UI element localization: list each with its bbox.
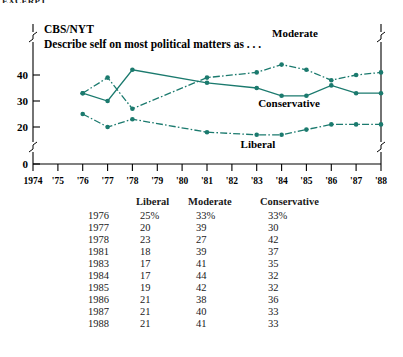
cell-moderate: 42 xyxy=(184,281,254,293)
cell-conservative: 37 xyxy=(254,245,348,257)
cell-moderate: 44 xyxy=(184,269,254,281)
cell-liberal: 20 xyxy=(130,221,184,233)
y-tick-labels: 0 20 30 40 xyxy=(17,69,29,170)
x-tick-label-85: '85 xyxy=(300,176,312,186)
cell-moderate: 40 xyxy=(184,305,254,317)
y-tick-label-20: 20 xyxy=(17,121,29,133)
table-row: 1985194232 xyxy=(88,281,348,293)
cell-year: 1983 xyxy=(88,257,130,269)
table-row: 1986213836 xyxy=(88,293,348,305)
x-tick-label-1974: 1974 xyxy=(24,176,43,186)
cell-liberal: 21 xyxy=(130,293,184,305)
series-layer xyxy=(80,62,383,137)
data-point-liberal-1978 xyxy=(130,117,135,122)
data-point-moderate-1978 xyxy=(130,107,135,112)
table-row: 1983174135 xyxy=(88,257,348,269)
cell-year: 1988 xyxy=(88,317,130,329)
data-point-moderate-1987 xyxy=(354,73,359,78)
data-point-conservative-1986 xyxy=(329,83,334,88)
cell-year: 1987 xyxy=(88,305,130,317)
cell-liberal: 21 xyxy=(130,305,184,317)
data-point-conservative-1983 xyxy=(254,86,259,91)
x-tick-label-86: '86 xyxy=(325,176,337,186)
table-header-moderate: Moderate xyxy=(184,196,254,209)
table-body: 197625%33%33%197720393019782327421981183… xyxy=(88,209,348,329)
cell-year: 1985 xyxy=(88,281,130,293)
x-tick-labels: 1974 '75 '76 '77 '78 '79 '80 '81 '82 '83… xyxy=(24,176,388,186)
data-point-conservative-1987 xyxy=(354,91,359,96)
right-axis-break-lower xyxy=(377,142,385,152)
cell-conservative: 36 xyxy=(254,293,348,305)
cell-moderate: 41 xyxy=(184,317,254,329)
cell-year: 1986 xyxy=(88,293,130,305)
x-tick-label-77: '77 xyxy=(102,176,114,186)
x-tick-label-88: '88 xyxy=(375,176,387,186)
table-row: 1987214033 xyxy=(88,305,348,317)
data-point-liberal-1984 xyxy=(279,133,284,138)
x-ticks xyxy=(33,164,381,171)
cell-liberal: 17 xyxy=(130,257,184,269)
cell-moderate: 39 xyxy=(184,221,254,233)
clipped-caption: EXCERPT xyxy=(2,0,46,3)
cell-year: 1984 xyxy=(88,269,130,281)
series-label-moderate: Moderate xyxy=(272,27,318,39)
data-table-wrap: Liberal Moderate Conservative 197625%33%… xyxy=(0,196,403,329)
table-header-row: Liberal Moderate Conservative xyxy=(88,196,348,209)
data-point-moderate-1981 xyxy=(205,75,210,80)
table-row: 1978232742 xyxy=(88,233,348,245)
data-point-moderate-1985 xyxy=(304,68,309,73)
data-point-conservative-1976 xyxy=(80,91,85,96)
cell-conservative: 33 xyxy=(254,305,348,317)
x-tick-label-75: '75 xyxy=(52,176,64,186)
y-axis-break-lower xyxy=(29,142,37,152)
table-header-year xyxy=(88,196,130,209)
y-tick-label-0: 0 xyxy=(23,158,29,170)
x-tick-label-76: '76 xyxy=(77,176,89,186)
x-tick-label-78: '78 xyxy=(126,176,138,186)
data-point-liberal-1986 xyxy=(329,122,334,127)
series-label-conservative: Conservative xyxy=(258,97,320,109)
data-point-moderate-1984 xyxy=(279,62,284,67)
cell-conservative: 33% xyxy=(254,209,348,221)
cell-liberal: 23 xyxy=(130,233,184,245)
cell-moderate: 38 xyxy=(184,293,254,305)
cell-conservative: 32 xyxy=(254,269,348,281)
chart-subtitle: Describe self on most political matters … xyxy=(44,38,261,51)
cell-year: 1976 xyxy=(88,209,130,221)
series-line-liberal xyxy=(83,114,381,135)
x-tick-label-84: '84 xyxy=(276,176,288,186)
x-tick-label-81: '81 xyxy=(201,176,213,186)
data-point-liberal-1981 xyxy=(205,130,210,135)
cell-conservative: 33 xyxy=(254,317,348,329)
cell-moderate: 33% xyxy=(184,209,254,221)
figure-root: EXCERPT xyxy=(0,0,403,357)
x-tick-label-80: '80 xyxy=(176,176,188,186)
x-tick-label-79: '79 xyxy=(151,176,163,186)
table-row: 1981183937 xyxy=(88,245,348,257)
cell-moderate: 27 xyxy=(184,233,254,245)
data-point-liberal-1988 xyxy=(379,122,384,127)
table-row: 1988214133 xyxy=(88,317,348,329)
x-tick-label-87: '87 xyxy=(350,176,362,186)
table-row: 1984174432 xyxy=(88,269,348,281)
cell-year: 1977 xyxy=(88,221,130,233)
cell-liberal: 19 xyxy=(130,281,184,293)
data-point-conservative-1988 xyxy=(379,91,384,96)
cell-year: 1978 xyxy=(88,233,130,245)
y-ticks xyxy=(33,75,40,164)
x-tick-label-83: '83 xyxy=(251,176,263,186)
cell-conservative: 35 xyxy=(254,257,348,269)
table-header-conservative: Conservative xyxy=(254,196,348,209)
cell-liberal: 25% xyxy=(130,209,184,221)
data-point-liberal-1977 xyxy=(105,125,110,130)
series-label-liberal: Liberal xyxy=(241,138,276,150)
data-point-moderate-1986 xyxy=(329,78,334,83)
cell-moderate: 41 xyxy=(184,257,254,269)
data-point-moderate-1983 xyxy=(254,70,259,75)
line-chart: 0 20 30 40 xyxy=(0,8,403,190)
data-point-liberal-1983 xyxy=(254,133,259,138)
cell-year: 1981 xyxy=(88,245,130,257)
cell-conservative: 32 xyxy=(254,281,348,293)
table-row: 1977203930 xyxy=(88,221,348,233)
cell-liberal: 18 xyxy=(130,245,184,257)
